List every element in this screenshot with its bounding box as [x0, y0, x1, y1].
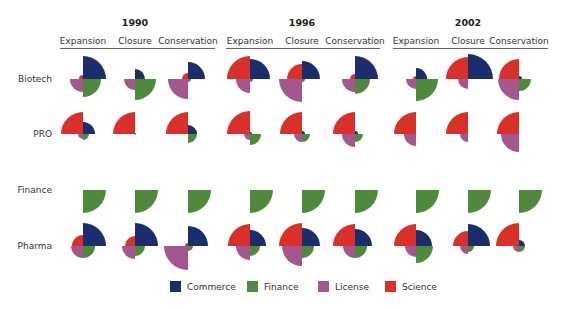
science-wedge: [496, 223, 519, 246]
polar-glyph-pro-1990-conservation: [166, 112, 197, 143]
commerce-wedge: [302, 131, 305, 134]
polar-glyph-pro-1990-expansion: [61, 112, 95, 140]
finance-wedge: [135, 246, 145, 256]
polar-glyph-pharma-2002-conservation: [496, 223, 525, 252]
commerce-wedge: [519, 76, 522, 79]
license-wedge: [405, 246, 416, 257]
commerce-wedge: [188, 226, 208, 246]
commerce-wedge: [83, 56, 106, 79]
finance-wedge: [83, 79, 101, 97]
license-wedge: [236, 246, 250, 260]
commerce-wedge: [416, 230, 432, 246]
finance-wedge: [519, 190, 542, 213]
polar-glyph-pharma-2002-closure: [453, 224, 490, 254]
legend-item-science: Science: [385, 281, 437, 292]
commerce-wedge: [519, 240, 525, 246]
finance-wedge: [135, 190, 158, 213]
finance-wedge: [355, 190, 378, 213]
polar-quadrant-grid: [0, 0, 570, 309]
finance-wedge: [83, 190, 106, 213]
science-wedge: [185, 243, 188, 246]
row-label: Finance: [18, 185, 52, 195]
commerce-wedge: [468, 54, 493, 79]
science-wedge: [446, 112, 468, 134]
column-header: Closure: [285, 36, 319, 46]
commerce-wedge: [250, 59, 270, 79]
license-swatch-icon: [318, 281, 329, 292]
science-wedge: [228, 224, 250, 246]
commerce-wedge: [135, 133, 136, 134]
header-rule: [393, 48, 548, 49]
polar-glyph-finance-2002-expansion: [416, 190, 439, 213]
license-wedge: [78, 134, 83, 139]
finance-wedge: [83, 246, 95, 258]
commerce-wedge: [250, 132, 252, 134]
legend-item-license: License: [318, 281, 369, 292]
column-header: Expansion: [60, 36, 106, 46]
commerce-wedge: [83, 122, 95, 134]
science-wedge: [446, 57, 468, 79]
polar-glyph-finance-1990-closure: [135, 190, 158, 213]
commerce-wedge: [355, 229, 372, 246]
polar-glyph-pro-1996-conservation: [333, 112, 363, 147]
license-wedge: [294, 134, 302, 142]
polar-glyph-biotech-1996-closure: [279, 61, 320, 102]
science-wedge: [499, 59, 519, 79]
science-wedge: [413, 76, 416, 79]
polar-glyph-pharma-1996-closure: [279, 223, 320, 266]
science-wedge: [182, 73, 188, 79]
column-header: Closure: [118, 36, 152, 46]
column-header: Conservation: [325, 36, 385, 46]
science-wedge: [227, 56, 250, 79]
header-rule: [226, 48, 380, 49]
legend-item-finance: Finance: [247, 281, 298, 292]
license-wedge: [501, 134, 519, 152]
finance-wedge: [519, 246, 525, 252]
finance-wedge: [468, 190, 491, 213]
license-wedge: [71, 246, 83, 258]
polar-glyph-biotech-2002-expansion: [406, 68, 438, 101]
license-wedge: [513, 246, 519, 252]
polar-glyph-pharma-1996-expansion: [228, 224, 266, 260]
science-wedge: [287, 64, 302, 79]
science-wedge: [61, 112, 83, 134]
license-wedge: [124, 79, 135, 90]
science-wedge: [497, 112, 519, 134]
license-wedge: [244, 134, 250, 140]
license-wedge: [122, 246, 135, 259]
finance-wedge: [355, 246, 367, 258]
finance-wedge: [468, 246, 474, 252]
finance-wedge: [416, 246, 433, 263]
science-wedge: [333, 112, 355, 134]
finance-wedge: [416, 79, 438, 101]
polar-glyph-finance-2002-conservation: [519, 190, 542, 213]
license-wedge: [460, 246, 468, 254]
license-wedge: [342, 134, 355, 147]
finance-wedge: [188, 134, 197, 143]
license-wedge: [282, 246, 302, 266]
finance-wedge: [188, 190, 211, 213]
finance-wedge: [302, 190, 325, 213]
polar-glyph-finance-2002-closure: [468, 190, 491, 213]
license-wedge: [404, 134, 416, 146]
commerce-swatch-icon: [170, 281, 181, 292]
license-wedge: [342, 79, 355, 92]
science-wedge: [227, 111, 250, 134]
science-wedge: [453, 231, 468, 246]
finance-wedge: [188, 79, 191, 82]
polar-glyph-pro-1996-closure: [280, 112, 310, 142]
column-header: Conservation: [489, 36, 549, 46]
row-label: Biotech: [18, 74, 52, 84]
license-wedge: [164, 246, 188, 270]
finance-wedge: [416, 190, 439, 213]
commerce-wedge: [355, 131, 358, 134]
finance-wedge: [355, 134, 363, 142]
polar-glyph-finance-1996-expansion: [250, 190, 273, 213]
polar-glyph-pro-2002-closure: [446, 112, 468, 142]
finance-wedge: [355, 79, 370, 94]
finance-wedge: [302, 246, 314, 258]
row-label: PRO: [33, 129, 52, 139]
year-header: 1990: [122, 17, 148, 28]
legend-item-commerce: Commerce: [170, 281, 236, 292]
finance-wedge: [83, 134, 89, 140]
